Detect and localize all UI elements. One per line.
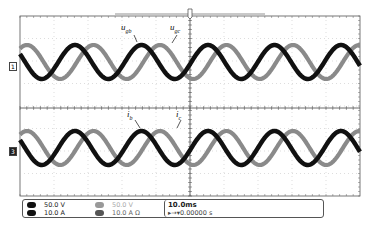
timebase-readout: 10.0ms ▸→▾0.00000 s — [164, 200, 323, 217]
label-i-b: ib — [127, 109, 133, 121]
trigger-marker-icon[interactable] — [188, 9, 192, 19]
channel-3-scale[interactable]: 10.0 A — [27, 209, 65, 217]
channel-1-ground-marker[interactable]: 1 — [9, 62, 17, 71]
annotation-arrow-ic — [177, 120, 181, 128]
channel-4-scale[interactable]: 10.0 A Ω — [95, 209, 140, 217]
oscilloscope-display — [0, 0, 369, 225]
annotation-arrow-ib — [135, 120, 140, 128]
graticule — [20, 16, 360, 196]
trigger-position-value[interactable]: ▸→▾0.00000 s — [168, 209, 212, 217]
channel-3-badge-icon — [27, 210, 36, 216]
label-u-gb: ugb — [121, 22, 132, 34]
channel-scale-readout: 50.0 V 50.0 V 10.0 A 10.0 A Ω — [23, 200, 163, 217]
annotation-arrow-ugc — [172, 35, 177, 43]
channel-3-ground-marker[interactable]: 3 — [9, 147, 17, 156]
channel-4-badge-icon — [95, 210, 104, 216]
channel-1-badge-icon — [27, 202, 36, 208]
label-u-gc: ugc — [170, 22, 180, 34]
channel-2-badge-icon — [95, 202, 104, 208]
label-i-c: ic — [176, 109, 181, 121]
scope-readout-panel: 50.0 V 50.0 V 10.0 A 10.0 A Ω 10.0ms ▸→▾… — [22, 199, 324, 218]
